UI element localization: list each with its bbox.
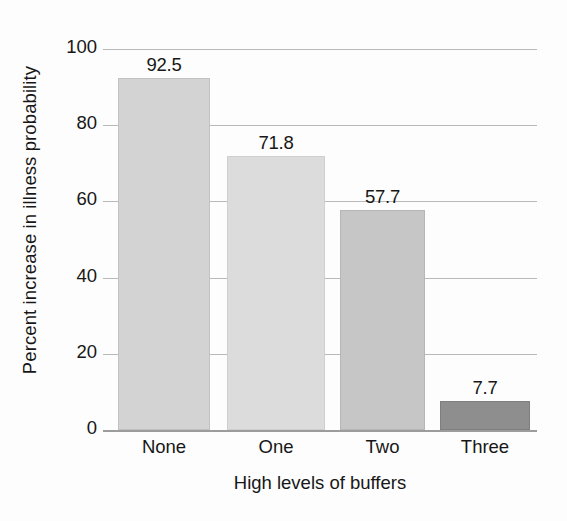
bar-chart: Percent increase in illness probability … [0, 0, 567, 521]
bar-value-label: 7.7 [472, 377, 497, 399]
y-tick-label: 80 [53, 112, 97, 134]
y-tick-label: 0 [53, 417, 97, 439]
y-tick-label: 60 [53, 188, 97, 210]
x-axis-tick-labels: NoneOneTwoThree [103, 436, 537, 466]
bar: 57.7 [340, 210, 425, 430]
x-axis-title: High levels of buffers [103, 472, 537, 494]
y-tick-label: 20 [53, 341, 97, 363]
bars-layer: 92.571.857.77.7 [103, 49, 537, 430]
bar: 7.7 [440, 401, 530, 430]
bar-value-label: 71.8 [258, 132, 293, 154]
y-axis-tick-labels: 100806040200 [49, 49, 97, 430]
y-tick-label: 40 [53, 264, 97, 286]
plot-area: 92.571.857.77.7 [103, 49, 537, 430]
bar: 71.8 [227, 156, 325, 430]
x-tick-label: Two [366, 436, 400, 458]
x-tick-label: One [259, 436, 294, 458]
bar-value-label: 57.7 [365, 186, 400, 208]
x-axis-baseline [103, 430, 537, 432]
y-axis-title-text: Percent increase in illness probability [19, 66, 41, 374]
bar: 92.5 [118, 78, 210, 430]
x-tick-label: Three [461, 436, 509, 458]
bar-value-label: 92.5 [146, 54, 181, 76]
x-tick-label: None [142, 436, 186, 458]
y-tick-label: 100 [53, 36, 97, 58]
